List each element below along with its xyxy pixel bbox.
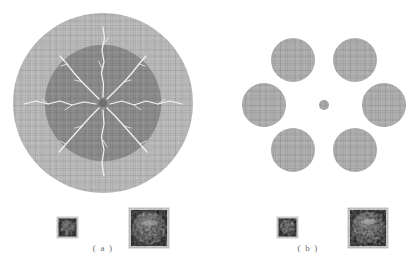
- thumbnail-b-small: [277, 217, 298, 238]
- panel-b-caption: ( b ): [283, 243, 333, 253]
- thumbnail-a-small: [57, 217, 78, 238]
- panel-b-satellite-top-right: [333, 38, 377, 82]
- panel-a-center-dot: [99, 99, 107, 107]
- panel-b-satellite-bottom-right: [333, 128, 377, 172]
- panel-b-center-dot: [319, 100, 329, 110]
- panel-b-satellite-middle-right: [362, 83, 406, 127]
- panel-a: [13, 13, 193, 193]
- panel-b-satellite-top-left: [271, 38, 315, 82]
- panel-b-satellite-bottom-left: [271, 128, 315, 172]
- thumbnail-a-large: [129, 208, 169, 248]
- figure-canvas: [0, 0, 418, 270]
- figure-container: [0, 0, 418, 270]
- panel-b: [242, 38, 406, 172]
- panel-a-caption: ( a ): [78, 243, 128, 253]
- thumbnail-b-large: [348, 208, 388, 248]
- panel-b-satellite-middle-left: [242, 83, 286, 127]
